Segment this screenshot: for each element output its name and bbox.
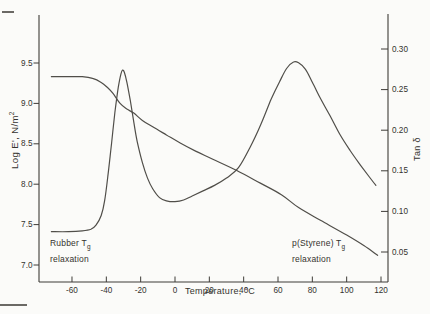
annotation-rubber-tg-line1: Rubber Tg [50,237,91,253]
y-axis-left-tick-label: 8.5 [21,139,33,148]
scan-artifact-mark-bottom-left [0,304,27,306]
y-axis-right-tick-label: 0.25 [392,85,408,94]
x-axis-tick-label: 100 [340,286,354,295]
x-axis-tick-label: -40 [100,286,112,295]
y-axis-right-tick-label: 0.30 [392,45,408,54]
y-axis-left-title-superscript: 2 [8,111,15,115]
y-axis-left-tick-label: 7.5 [21,220,33,229]
modulus-curve [51,77,377,256]
x-axis-tick-label: -20 [135,286,147,295]
y-axis-left-tick-label: 7.0 [21,261,33,270]
annotation-rubber-tg-line2: relaxation [50,253,91,266]
y-axis-right-tick-label: 0.10 [392,207,408,216]
chart-plot-area: 9.59.08.58.07.57.00.300.250.200.150.100.… [0,0,430,314]
scan-artifact-mark-top-left [2,11,14,13]
x-axis-tick-label: -60 [66,286,78,295]
dynamic-mechanical-spectrum-figure: 9.59.08.58.07.57.00.300.250.200.150.100.… [0,0,430,314]
annotation-styrene-tg: p(Styrene) Tg relaxation [292,237,345,266]
y-axis-left-tick-label: 8.0 [21,180,33,189]
y-axis-right-title: Tan δ [412,137,422,161]
y-axis-left-tick-label: 9.5 [21,59,33,68]
y-axis-right-tick-label: 0.15 [392,166,408,175]
x-axis-title: Temperature, °C [185,286,255,296]
y-axis-right-tick-label: 0.20 [392,126,408,135]
y-axis-right-tick-label: 0.05 [392,248,408,257]
y-axis-left-tick-label: 9.0 [21,99,33,108]
annotation-rubber-tg: Rubber Tg relaxation [50,237,91,266]
x-axis-tick-label: 80 [308,286,318,295]
x-axis-tick-label: 0 [173,286,178,295]
y-axis-left-title-text: Log E', N/m [9,115,20,169]
annotation-styrene-tg-line1: p(Styrene) Tg [292,237,345,253]
x-axis-tick-label: 60 [273,286,283,295]
tan-delta-curve [51,61,376,231]
annotation-styrene-tg-line2: relaxation [292,253,345,266]
y-axis-left-title: Log E', N/m2 [8,111,20,169]
x-axis-tick-label: 120 [374,286,388,295]
